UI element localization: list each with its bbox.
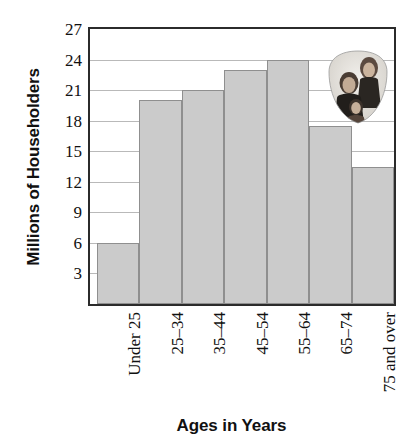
bar: [97, 243, 139, 304]
y-axis-title: Millions of Householders: [24, 37, 44, 297]
y-tick-label: 9: [46, 204, 82, 221]
y-tick-label: 24: [46, 51, 82, 68]
x-tick-label: Under 25: [126, 312, 143, 376]
family-photograph: [327, 50, 389, 124]
x-axis-title: Ages in Years: [0, 416, 419, 436]
x-tick-label: 35–44: [211, 312, 228, 355]
x-tick-label: 55–64: [296, 312, 313, 355]
x-tick-label: 25–34: [169, 312, 186, 355]
x-tick-label: 45–54: [254, 312, 271, 355]
bar: [182, 90, 224, 304]
y-tick-label: 21: [46, 82, 82, 99]
y-tick-label: 18: [46, 112, 82, 129]
x-tick-label: 65–74: [338, 312, 355, 355]
bar: [352, 167, 394, 305]
y-tick-label: 6: [46, 234, 82, 251]
y-tick-label: 12: [46, 173, 82, 190]
x-tick-label: 75 and over: [381, 312, 398, 392]
y-tick-label: 27: [46, 21, 82, 38]
y-tick-label: 15: [46, 143, 82, 160]
bar: [267, 60, 309, 304]
x-axis-tick-labels: Under 2525–3435–4445–5455–6465–7475 and …: [0, 306, 419, 421]
bar: [224, 70, 266, 304]
bar: [139, 100, 181, 304]
y-tick-label: 3: [46, 265, 82, 282]
bar: [309, 126, 351, 304]
bar-chart: Millions of Householders 369121518212427: [0, 0, 419, 447]
